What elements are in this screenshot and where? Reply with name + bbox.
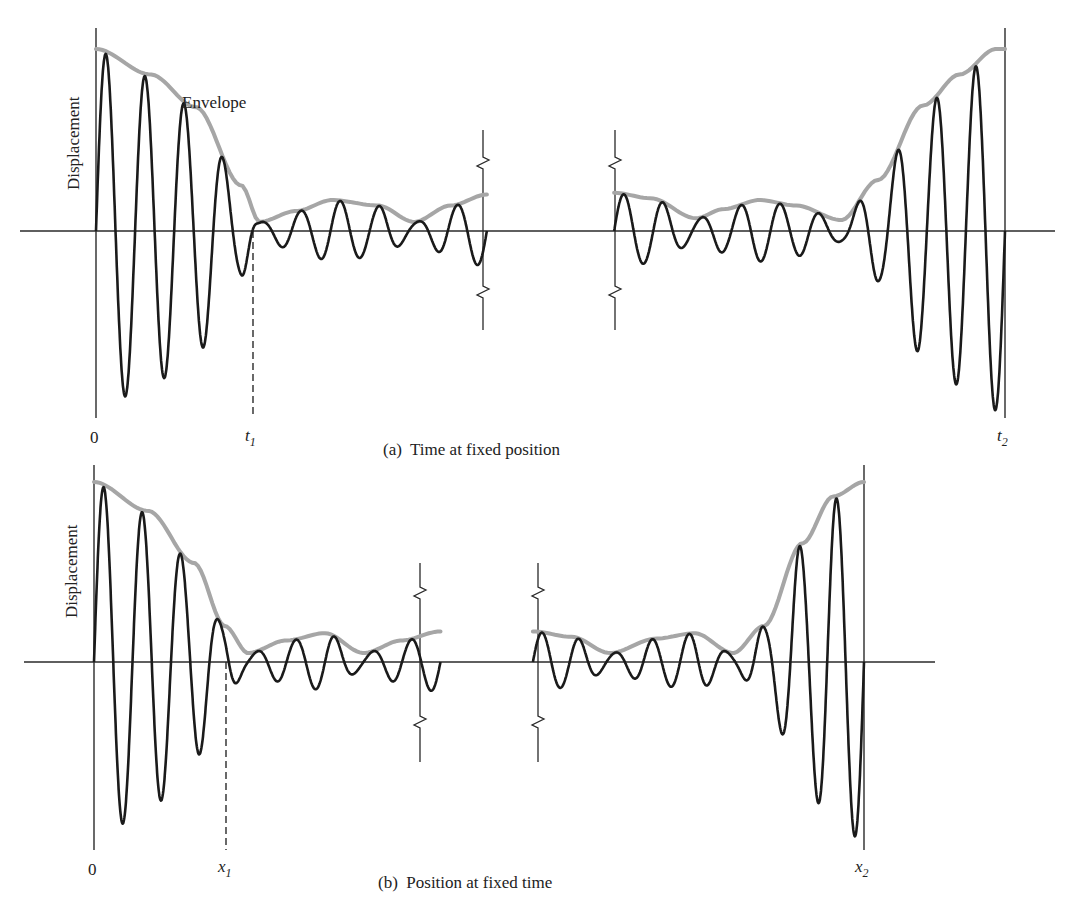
panel-a-envelope-label: Envelope [182,93,246,112]
panel-b-oscillation-left [94,487,441,823]
panel-b-x1-label: x1 [217,857,232,880]
panel-b-origin-label: 0 [88,860,97,879]
panel-b-ylabel: Displacement [62,524,81,618]
panel-a-t2-label: t2 [997,426,1008,449]
panel-a-t1-label: t1 [245,426,256,449]
panel-a-ylabel: Displacement [64,96,83,190]
panel-a: Displacement Envelope 0 t1 t2 (a) Time a… [20,28,1055,459]
panel-a-oscillation-right [614,66,1005,410]
figure-canvas: Displacement Envelope 0 t1 t2 (a) Time a… [0,0,1071,923]
panel-a-envelope-left [96,49,487,222]
panel-b-oscillation-right [533,499,864,837]
panel-b: Displacement 0 x1 x2 (b) Position at fix… [24,465,935,892]
panel-a-axis-break-left [477,130,489,330]
panel-a-envelope-right [614,49,1005,220]
panel-a-caption: (a) Time at fixed position [383,440,561,459]
panel-a-oscillation-left [96,54,487,397]
panel-b-x2-label: x2 [854,857,869,880]
panel-b-envelope-left [94,482,441,653]
panel-b-envelope-right [533,482,864,653]
panel-a-origin-label: 0 [90,428,99,447]
panel-b-caption: (b) Position at fixed time [378,873,552,892]
